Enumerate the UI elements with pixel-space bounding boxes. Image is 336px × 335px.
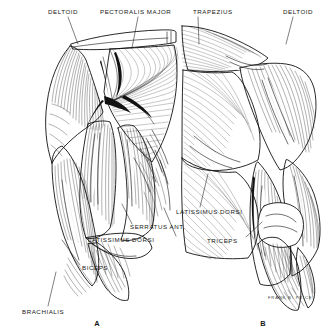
label-trapezius: TRAPEZIUS bbox=[193, 8, 233, 15]
anatomical-illustration: DELTOID PECTORALIS MAJOR TRAPEZIUS DELTO… bbox=[0, 0, 336, 335]
illustration-plate: DELTOID PECTORALIS MAJOR TRAPEZIUS DELTO… bbox=[0, 0, 336, 335]
label-brachialis: BRACHIALIS bbox=[22, 308, 64, 315]
plate-background bbox=[0, 0, 336, 335]
label-latissimus-dorsi-right: LATISSIMUS DORSI bbox=[176, 208, 242, 215]
label-triceps: TRICEPS bbox=[207, 237, 238, 244]
label-serratus-anterior: SERRATUS ANT. bbox=[130, 223, 185, 230]
label-deltoid-right: DELTOID bbox=[283, 8, 313, 15]
label-pectoralis-major: PECTORALIS MAJOR bbox=[100, 8, 171, 15]
label-latissimus-dorsi-left: LATISSIMUS DORSI bbox=[88, 236, 154, 243]
artist-signature: FRANK B. PRICE, bbox=[268, 295, 314, 300]
elbow-posterior bbox=[258, 203, 304, 248]
label-deltoid-left: DELTOID bbox=[48, 8, 78, 15]
figure-letter-a: A bbox=[94, 319, 100, 328]
label-biceps: BICEPS bbox=[82, 264, 108, 271]
figure-letter-b: B bbox=[260, 319, 266, 328]
